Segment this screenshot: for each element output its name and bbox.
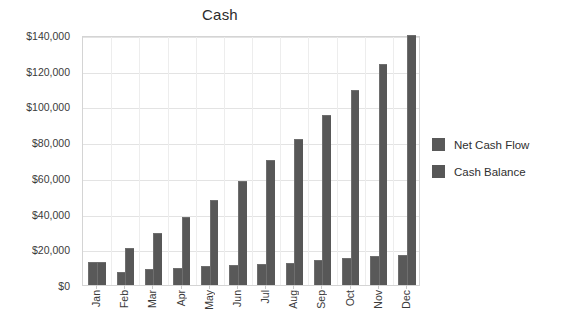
bar-cash-balance-feb xyxy=(125,248,134,286)
bar-net-cash-flow-aug xyxy=(286,263,295,285)
bar-cash-balance-aug xyxy=(294,139,303,285)
bar-cash-balance-oct xyxy=(351,90,360,285)
bar-net-cash-flow-jan xyxy=(88,262,97,285)
gridline-horizontal xyxy=(83,37,419,38)
bar-net-cash-flow-oct xyxy=(342,258,351,285)
x-axis-tick-mark xyxy=(96,285,97,289)
x-axis-tick-mark xyxy=(350,285,351,289)
bar-net-cash-flow-may xyxy=(201,266,210,285)
legend-item-net-cash-flow[interactable]: Net Cash Flow xyxy=(432,138,562,151)
chart-title: Cash xyxy=(0,6,440,23)
x-axis-tick-mark xyxy=(181,285,182,289)
x-axis-tick-label-sep: Sep xyxy=(315,290,327,309)
x-axis-tick-label-feb: Feb xyxy=(118,290,130,308)
bar-net-cash-flow-feb xyxy=(117,272,126,285)
gridline-horizontal xyxy=(83,180,419,181)
x-axis-tick-label-jul: Jul xyxy=(259,290,271,303)
bar-cash-balance-dec xyxy=(407,35,416,285)
gridline-vertical xyxy=(308,37,309,285)
y-axis-tick-label: $0 xyxy=(58,280,70,292)
bar-net-cash-flow-jul xyxy=(257,264,266,285)
gridline-vertical xyxy=(111,37,112,285)
bar-cash-balance-sep xyxy=(322,115,331,285)
x-axis-tick-mark xyxy=(265,285,266,289)
x-axis-tick-mark xyxy=(378,285,379,289)
legend-item-cash-balance[interactable]: Cash Balance xyxy=(432,165,562,178)
cash-bar-chart: Cash $0$20,000$40,000$60,000$80,000$100,… xyxy=(0,0,565,329)
bar-net-cash-flow-nov xyxy=(370,256,379,285)
x-axis: JanFebMarAprMayJunJulAugSepOctNovDec xyxy=(82,288,420,328)
bar-cash-balance-jan xyxy=(97,262,106,285)
x-axis-tick-label-mar: Mar xyxy=(146,290,158,308)
x-axis-tick-label-jun: Jun xyxy=(231,290,243,307)
x-axis-tick-mark xyxy=(152,285,153,289)
plot-area xyxy=(82,36,420,286)
gridline-vertical xyxy=(280,37,281,285)
gridline-vertical xyxy=(168,37,169,285)
bar-net-cash-flow-apr xyxy=(173,268,182,285)
gridline-vertical xyxy=(196,37,197,285)
gridline-vertical xyxy=(252,37,253,285)
gridline-vertical xyxy=(139,37,140,285)
x-axis-tick-label-jan: Jan xyxy=(90,290,102,307)
gridline-vertical xyxy=(337,37,338,285)
y-axis-tick-label: $20,000 xyxy=(32,244,70,256)
chart-legend: Net Cash FlowCash Balance xyxy=(432,138,562,192)
gridline-horizontal xyxy=(83,144,419,145)
legend-swatch-icon xyxy=(432,138,445,151)
x-axis-tick-label-apr: Apr xyxy=(175,290,187,306)
x-axis-tick-label-may: May xyxy=(203,290,215,310)
y-axis-tick-label: $40,000 xyxy=(32,209,70,221)
x-axis-tick-mark xyxy=(237,285,238,289)
x-axis-tick-label-nov: Nov xyxy=(372,290,384,309)
y-axis-tick-label: $80,000 xyxy=(32,137,70,149)
y-axis: $0$20,000$40,000$60,000$80,000$100,000$1… xyxy=(0,36,76,286)
bar-net-cash-flow-mar xyxy=(145,269,154,285)
bar-cash-balance-jul xyxy=(266,160,275,285)
bar-net-cash-flow-dec xyxy=(398,255,407,285)
x-axis-tick-mark xyxy=(321,285,322,289)
bar-cash-balance-nov xyxy=(379,64,388,285)
bar-net-cash-flow-jun xyxy=(229,265,238,285)
legend-swatch-icon xyxy=(432,165,445,178)
gridline-vertical xyxy=(224,37,225,285)
x-axis-tick-label-aug: Aug xyxy=(287,290,299,309)
gridline-horizontal xyxy=(83,73,419,74)
gridline-vertical xyxy=(365,37,366,285)
gridline-horizontal xyxy=(83,216,419,217)
y-axis-tick-label: $100,000 xyxy=(26,101,70,113)
y-axis-tick-label: $60,000 xyxy=(32,173,70,185)
x-axis-tick-label-dec: Dec xyxy=(400,290,412,309)
x-axis-tick-label-oct: Oct xyxy=(344,290,356,306)
gridline-horizontal xyxy=(83,108,419,109)
gridline-vertical xyxy=(393,37,394,285)
bar-net-cash-flow-sep xyxy=(314,260,323,285)
legend-item-label: Cash Balance xyxy=(454,166,526,178)
x-axis-tick-mark xyxy=(209,285,210,289)
legend-item-label: Net Cash Flow xyxy=(454,139,529,151)
x-axis-tick-mark xyxy=(124,285,125,289)
y-axis-tick-label: $140,000 xyxy=(26,30,70,42)
bar-cash-balance-mar xyxy=(153,233,162,285)
x-axis-tick-mark xyxy=(293,285,294,289)
y-axis-tick-label: $120,000 xyxy=(26,66,70,78)
bar-cash-balance-apr xyxy=(182,217,191,285)
bar-cash-balance-jun xyxy=(238,181,247,285)
x-axis-tick-mark xyxy=(406,285,407,289)
bar-cash-balance-may xyxy=(210,200,219,285)
